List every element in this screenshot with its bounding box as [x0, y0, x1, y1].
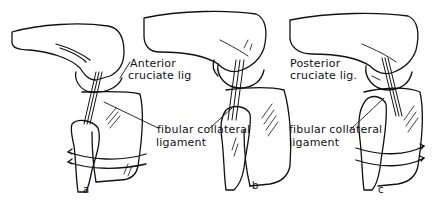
- panel-letter-b: b: [252, 180, 258, 191]
- knee-drawings: [0, 0, 435, 202]
- panel-letter-c: c: [378, 184, 384, 195]
- panel-a-drawing: [12, 24, 158, 192]
- fibular-collateral-label-a-line1: fibular collateral: [157, 124, 250, 135]
- panel-c-drawing: [290, 13, 424, 190]
- fibular-collateral-label-a-line2: ligament: [156, 137, 206, 148]
- posterior-cruciate-label-line2: cruciate lig.: [290, 70, 357, 81]
- fibular-collateral-label-c-line1: fibular collateral: [289, 124, 382, 135]
- panel-letter-a: a: [83, 184, 89, 195]
- fibular-collateral-label-c-line2: ligament: [289, 137, 339, 148]
- anterior-cruciate-label-line1: Anterior: [130, 58, 176, 69]
- panel-b-drawing: [144, 11, 291, 190]
- posterior-cruciate-label-line1: Posterior: [290, 58, 340, 69]
- knee-ligament-figure: Anterior cruciate lig fibular collateral…: [0, 0, 435, 202]
- anterior-cruciate-label-line2: cruciate lig: [128, 70, 191, 81]
